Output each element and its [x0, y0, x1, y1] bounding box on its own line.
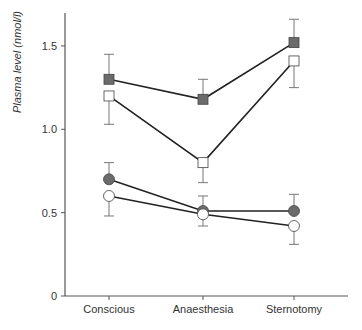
y-tick-label: 0 [51, 290, 57, 302]
open-circle-marker [289, 220, 300, 231]
open-square-marker [198, 158, 208, 168]
open-square-line [109, 61, 294, 163]
series-lines [109, 43, 294, 226]
data-markers [104, 38, 300, 232]
filled-square-marker [198, 94, 208, 104]
open-circle-marker [198, 209, 209, 220]
x-tick-label: Conscious [83, 303, 135, 315]
filled-square-marker [104, 74, 114, 84]
filled-circle-marker [289, 205, 300, 216]
y-tick-label: 1.5 [42, 40, 57, 52]
open-circle-marker [104, 190, 115, 201]
axes: 00.51.01.5ConsciousAnaesthesiaSternotomy [42, 13, 348, 315]
x-tick-label: Anaesthesia [173, 303, 234, 315]
y-tick-label: 1.0 [42, 123, 57, 135]
filled-circle-marker [104, 174, 115, 185]
x-tick-label: Sternotomy [266, 303, 323, 315]
open-square-marker [289, 56, 299, 66]
y-tick-label: 0.5 [42, 207, 57, 219]
filled-square-marker [289, 38, 299, 48]
plasma-level-chart: 00.51.01.5ConsciousAnaesthesiaSternotomy… [0, 0, 362, 330]
y-axis-title: Plasma level (nmol/l) [11, 11, 23, 113]
open-square-marker [104, 91, 114, 101]
